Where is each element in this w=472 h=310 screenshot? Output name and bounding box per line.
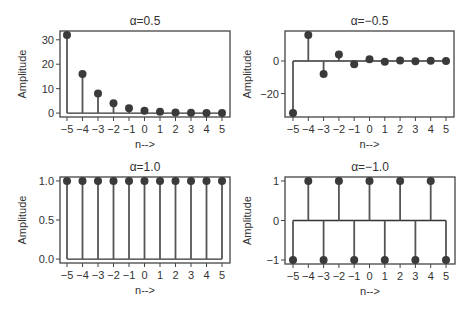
stem-marker: [110, 99, 118, 107]
stem-marker: [411, 256, 419, 264]
y-tick-label: 1: [273, 175, 279, 187]
stem-marker: [304, 177, 312, 185]
x-tick-label: 4: [428, 123, 434, 135]
stem-marker: [396, 57, 404, 65]
x-tick-label: 5: [219, 123, 225, 135]
x-tick-label: −5: [287, 123, 300, 135]
y-axis-label: Amplitude: [16, 50, 28, 99]
stem-marker: [396, 177, 404, 185]
subplot-title: α=0.5: [130, 14, 161, 28]
stem-marker: [366, 55, 374, 63]
x-tick-label: 4: [203, 269, 209, 281]
y-tick-label: 0.5: [39, 214, 54, 226]
y-tick-label: 0: [273, 215, 279, 227]
x-tick-label: 0: [141, 123, 147, 135]
x-tick-label: 1: [382, 123, 388, 135]
stem-marker: [141, 177, 149, 185]
x-tick-label: 2: [397, 270, 403, 282]
stem-marker: [218, 109, 226, 117]
stem-marker: [218, 177, 226, 185]
x-axis-label: n-->: [360, 285, 380, 297]
x-tick-label: −2: [333, 123, 346, 135]
x-tick-label: 5: [443, 270, 449, 282]
figure: α=0.5−5−4−3−2−10123450102030n-->Amplitud…: [0, 0, 472, 310]
stem-marker: [63, 31, 71, 39]
x-tick-label: 2: [397, 123, 403, 135]
stem-marker: [203, 109, 211, 117]
stem-marker: [79, 70, 87, 78]
stem-marker: [350, 256, 358, 264]
x-tick-label: 3: [412, 123, 418, 135]
stem-marker: [381, 256, 389, 264]
stem-marker: [381, 58, 389, 66]
stem-marker: [79, 177, 87, 185]
x-tick-label: 4: [428, 270, 434, 282]
x-tick-label: 2: [172, 123, 178, 135]
y-tick-label: 0: [48, 107, 54, 119]
stem-marker: [427, 177, 435, 185]
stem-marker: [203, 177, 211, 185]
x-tick-label: 0: [366, 123, 372, 135]
stem-marker: [187, 109, 195, 117]
stem-marker: [320, 70, 328, 78]
x-tick-label: −4: [76, 123, 89, 135]
stem-marker: [156, 177, 164, 185]
subplot-3: α=1.0−5−4−3−2−10123450.00.51.0n-->Amplit…: [16, 160, 230, 296]
axes-frame: [285, 31, 454, 117]
x-tick-label: −2: [107, 123, 120, 135]
subplot-2: α=−0.5−5−4−3−2−1012345−200n-->Amplitude: [241, 14, 454, 150]
x-tick-label: −5: [61, 269, 74, 281]
x-tick-label: −2: [333, 270, 346, 282]
y-tick-label: 0: [273, 55, 279, 67]
stem-marker: [125, 177, 133, 185]
x-axis-label: n-->: [135, 138, 155, 150]
y-axis-label: Amplitude: [241, 196, 253, 245]
x-tick-label: −3: [92, 123, 105, 135]
stem-marker: [156, 108, 164, 116]
y-tick-label: 30: [42, 34, 54, 46]
stem-marker: [172, 177, 180, 185]
stem-marker: [427, 57, 435, 65]
x-axis-label: n-->: [360, 138, 380, 150]
x-tick-label: 1: [157, 123, 163, 135]
x-tick-label: −3: [317, 123, 330, 135]
stem-marker: [172, 108, 180, 116]
y-tick-label: 1.0: [39, 175, 54, 187]
stem-marker: [94, 177, 102, 185]
stem-marker: [289, 109, 297, 117]
stem-marker: [63, 177, 71, 185]
stem-marker: [366, 177, 374, 185]
x-tick-label: 3: [188, 269, 194, 281]
x-tick-label: 0: [141, 269, 147, 281]
x-tick-label: 3: [188, 123, 194, 135]
x-tick-label: 2: [172, 269, 178, 281]
stem-marker: [110, 177, 118, 185]
subplot-title: α=−1.0: [351, 160, 389, 174]
x-tick-label: −4: [302, 270, 315, 282]
stem-marker: [442, 57, 450, 65]
x-tick-label: 3: [412, 270, 418, 282]
stem-plots-figure: α=0.5−5−4−3−2−10123450102030n-->Amplitud…: [0, 0, 472, 310]
stem-marker: [94, 90, 102, 98]
stem-marker: [304, 31, 312, 39]
subplot-title: α=−0.5: [351, 14, 389, 28]
x-tick-label: 4: [203, 123, 209, 135]
x-axis-label: n-->: [135, 284, 155, 296]
subplot-title: α=1.0: [130, 160, 161, 174]
stem-marker: [187, 177, 195, 185]
y-tick-label: 10: [42, 83, 54, 95]
x-tick-label: 1: [382, 270, 388, 282]
y-axis-label: Amplitude: [241, 50, 253, 99]
y-tick-label: −20: [260, 88, 279, 100]
x-tick-label: 5: [219, 269, 225, 281]
y-tick-label: 0.0: [39, 253, 54, 265]
x-tick-label: −1: [123, 123, 136, 135]
x-tick-label: −4: [302, 123, 315, 135]
x-tick-label: −1: [123, 269, 136, 281]
stem-marker: [141, 107, 149, 115]
x-tick-label: −5: [287, 270, 300, 282]
stem-marker: [442, 256, 450, 264]
stem-marker: [350, 60, 358, 68]
subplot-4: α=−1.0−5−4−3−2−1012345−101n-->Amplitude: [241, 160, 455, 297]
x-tick-label: −3: [92, 269, 105, 281]
